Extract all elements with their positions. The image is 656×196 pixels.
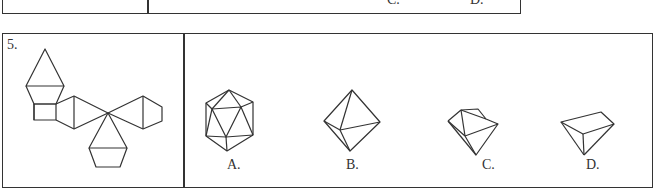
option-a-label: A.: [227, 157, 241, 173]
option-a-figure: [202, 88, 262, 153]
option-c-figure: [445, 100, 510, 160]
prev-question-frame: [2, 0, 521, 14]
option-c-label: C.: [482, 157, 495, 173]
option-d-label: D.: [586, 157, 600, 173]
net-figure: [0, 30, 180, 180]
prev-option-d-label: D.: [470, 0, 484, 8]
option-b-figure: [320, 88, 385, 158]
option-b-label: B.: [346, 157, 359, 173]
question-divider: [183, 33, 185, 188]
prev-option-c-label: C.: [387, 0, 400, 8]
prev-question-divider: [147, 0, 149, 14]
